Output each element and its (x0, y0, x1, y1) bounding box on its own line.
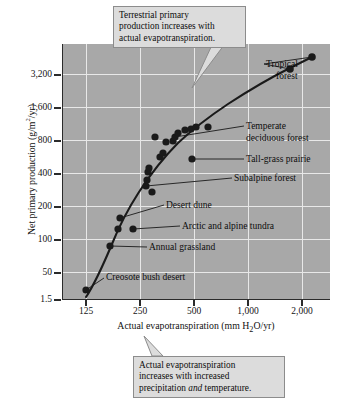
y-tick-mark (54, 74, 61, 76)
y-axis-title-superscript: 2 (24, 118, 31, 121)
y-tick-mark (54, 299, 61, 301)
y-axis-title-post: /yr) (26, 104, 37, 118)
label-subalpine-forest: Subalpine forest (234, 173, 296, 184)
y-tick-mark (54, 107, 61, 109)
callout-bottom-line3: precipitation and temperature. (139, 383, 279, 394)
x-tick-label: 125 (79, 306, 93, 317)
gridline-vertical (248, 44, 249, 299)
x-tick-label: 2,000 (291, 306, 312, 317)
callout-top-line1: Terrestrial primary (119, 10, 240, 21)
y-tick-label: 800 (38, 135, 52, 145)
gridline-horizontal (63, 272, 330, 273)
label-tropical-forest-line1: Tropical (266, 59, 298, 70)
callout-bottom: Actual evapotranspiration increases with… (133, 356, 285, 398)
y-tick-label: 200 (38, 201, 52, 211)
x-axis-title: Actual evapotranspiration (mm H2O/yr) (62, 320, 330, 334)
callout-top: Terrestrial primary production increases… (113, 6, 246, 48)
x-axis-title-pre: Actual evapotranspiration (mm H (117, 320, 249, 331)
y-tick-label: 1.5 (40, 294, 52, 304)
plot-area (62, 44, 330, 300)
gridline-vertical (302, 44, 303, 299)
gridline-horizontal (63, 107, 330, 108)
y-tick-mark (54, 206, 61, 208)
y-tick-mark (54, 239, 61, 241)
callout-top-line2: production increases with (119, 21, 240, 32)
label-temperate-deciduous-forest-line1: Temperate (246, 121, 286, 132)
x-tick-label: 500 (187, 306, 201, 317)
callout-bottom-pointer (144, 336, 163, 356)
y-tick-label: 100 (38, 234, 52, 244)
y-tick-mark (54, 173, 61, 175)
callout-bottom-line3-post: temperature. (202, 383, 251, 393)
label-desert-dune: Desert dune (166, 200, 212, 211)
x-tick-label: 1,000 (237, 306, 258, 317)
figure-container: 3,200 1,600 800 400 200 100 50 1.5 125 2… (0, 0, 348, 410)
label-tropical-forest-line2: forest (276, 71, 298, 82)
label-temperate-deciduous-forest-line2: deciduous forest (246, 133, 309, 144)
callout-bottom-line1: Actual evapotranspiration (139, 360, 279, 371)
label-tall-grass-prairie: Tall-grass prairie (246, 154, 311, 165)
label-annual-grassland: Annual grassland (149, 242, 215, 253)
gridline-horizontal (63, 239, 330, 240)
gridline-vertical (86, 44, 87, 299)
label-creosote-bush-desert: Creosote bush desert (106, 272, 185, 283)
y-axis-title-pre: Net primary production (g/m (26, 122, 37, 235)
x-axis-title-post: O/yr) (253, 320, 274, 331)
callout-bottom-line3-emphasis: and (188, 383, 202, 393)
callout-top-line3: actual evapotranspiration. (119, 33, 240, 44)
callout-bottom-line2: increases with increased (139, 371, 279, 382)
label-arctic-alpine-tundra: Arctic and alpine tundra (182, 221, 274, 232)
y-tick-mark (54, 140, 61, 142)
gridline-vertical (140, 44, 141, 299)
y-tick-label: 400 (38, 168, 52, 178)
callout-bottom-line3-pre: precipitation (139, 383, 188, 393)
x-tick-label: 250 (133, 306, 147, 317)
gridline-vertical (194, 44, 195, 299)
y-tick-label: 50 (43, 267, 53, 277)
y-axis-title: Net primary production (g/m2/yr) (26, 70, 37, 270)
y-tick-mark (54, 272, 61, 274)
